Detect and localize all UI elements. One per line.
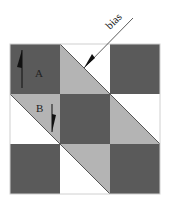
cell-r2c2-dark bbox=[60, 94, 110, 144]
bias-label: bias bbox=[103, 10, 124, 31]
label-b: B bbox=[36, 102, 43, 114]
label-a: A bbox=[35, 67, 43, 79]
cell-r1c3-dark bbox=[110, 44, 160, 94]
quilt-block-diagram: A B bias bbox=[0, 0, 170, 212]
cell-r3c3-dark bbox=[110, 144, 160, 194]
cell-r3c1-dark bbox=[10, 144, 60, 194]
